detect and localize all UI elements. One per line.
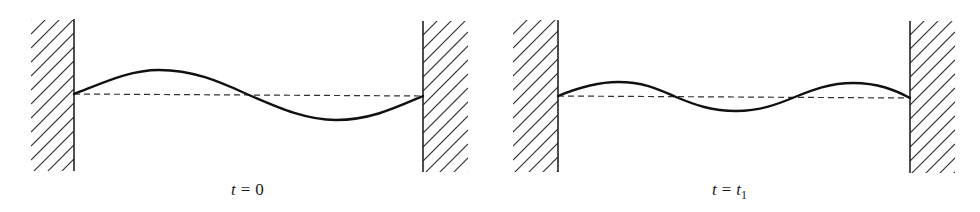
hatch-line bbox=[910, 18, 955, 63]
hatch-line bbox=[910, 0, 955, 35]
hatch-line bbox=[31, 47, 74, 90]
hatch-line bbox=[513, 171, 558, 212]
hatch-line bbox=[513, 185, 558, 212]
hatch-line bbox=[910, 4, 955, 49]
hatch-line bbox=[513, 31, 558, 76]
hatch-line bbox=[423, 172, 468, 212]
hatch-line bbox=[423, 60, 468, 105]
hatch-line bbox=[910, 158, 955, 203]
hatch-line bbox=[513, 199, 558, 212]
hatch-line bbox=[423, 158, 468, 203]
hatch-line bbox=[513, 115, 558, 160]
hatch-line bbox=[910, 116, 955, 161]
hatch-line bbox=[910, 60, 955, 105]
label-variable: t bbox=[231, 180, 236, 199]
hatch-line bbox=[423, 102, 468, 147]
hatch-line bbox=[513, 59, 558, 104]
hatch-line bbox=[423, 46, 468, 91]
hatch-line bbox=[423, 130, 468, 175]
hatch-line bbox=[423, 116, 468, 161]
hatch-line bbox=[910, 88, 955, 133]
hatch-line bbox=[910, 74, 955, 119]
hatch-line bbox=[31, 0, 74, 34]
hatch-line bbox=[423, 0, 468, 35]
hatch-line bbox=[513, 87, 558, 132]
hatch-line bbox=[423, 4, 468, 49]
hatch-line bbox=[423, 0, 468, 21]
hatch-line bbox=[31, 187, 74, 212]
hatch-line bbox=[513, 143, 558, 188]
hatch-line bbox=[423, 200, 468, 212]
hatch-line bbox=[513, 73, 558, 118]
hatch-line bbox=[513, 0, 558, 20]
hatch-line bbox=[31, 103, 74, 146]
hatch-line bbox=[31, 159, 74, 202]
left-wall-hatching bbox=[31, 0, 74, 212]
hatch-line bbox=[513, 101, 558, 146]
hatch-line bbox=[423, 18, 468, 63]
hatch-line bbox=[910, 102, 955, 147]
hatch-line bbox=[513, 17, 558, 62]
left-wall-hatching bbox=[513, 0, 558, 212]
right-wall-hatching bbox=[423, 0, 468, 212]
hatch-line bbox=[31, 201, 74, 212]
hatch-line bbox=[910, 172, 955, 212]
hatch-line bbox=[423, 144, 468, 189]
hatch-line bbox=[513, 0, 558, 34]
hatch-line bbox=[31, 0, 74, 20]
hatch-line bbox=[31, 173, 74, 212]
hatch-line bbox=[31, 75, 74, 118]
label-value: 0 bbox=[255, 180, 264, 199]
hatch-line bbox=[910, 32, 955, 77]
hatch-line bbox=[423, 88, 468, 133]
hatch-line bbox=[31, 89, 74, 132]
hatch-line bbox=[513, 157, 558, 202]
hatch-line bbox=[31, 33, 74, 76]
hatch-line bbox=[31, 61, 74, 104]
hatch-line bbox=[513, 45, 558, 90]
hatch-line bbox=[910, 186, 955, 212]
hatch-line bbox=[423, 32, 468, 77]
standing-wave-diagram bbox=[0, 0, 980, 212]
equilibrium-line bbox=[558, 96, 910, 98]
hatch-line bbox=[31, 117, 74, 160]
hatch-line bbox=[513, 3, 558, 48]
hatch-line bbox=[31, 145, 74, 188]
hatch-line bbox=[423, 186, 468, 212]
label-variable: t bbox=[712, 180, 717, 199]
label-subscript: 1 bbox=[741, 188, 747, 202]
time-label-t0: t=0 bbox=[231, 180, 264, 200]
label-equals: = bbox=[722, 180, 732, 199]
hatch-line bbox=[423, 74, 468, 119]
hatch-line bbox=[31, 5, 74, 48]
string-wave bbox=[74, 70, 423, 120]
hatch-line bbox=[513, 129, 558, 174]
hatch-line bbox=[910, 0, 955, 21]
hatch-line bbox=[31, 19, 74, 62]
hatch-line bbox=[31, 131, 74, 174]
hatch-line bbox=[910, 46, 955, 91]
time-label-t1: t=t1 bbox=[712, 180, 747, 203]
hatch-line bbox=[910, 130, 955, 175]
label-equals: = bbox=[241, 180, 251, 199]
right-wall-hatching bbox=[910, 0, 955, 212]
hatch-line bbox=[910, 200, 955, 212]
hatch-line bbox=[910, 144, 955, 189]
